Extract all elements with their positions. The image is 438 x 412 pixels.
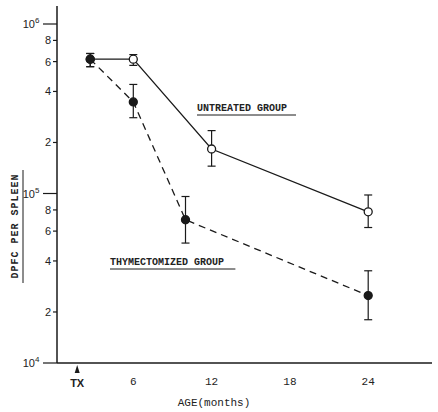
open-circle-marker	[129, 55, 137, 63]
filled-circle-marker	[182, 216, 190, 224]
x-axis-label: AGE(months)	[178, 397, 251, 409]
label-untreated-group: UNTREATED GROUP	[197, 103, 287, 114]
filled-circle-marker	[86, 55, 94, 63]
y-tick-label: 2	[45, 306, 51, 318]
series-line	[90, 59, 368, 212]
y-tick-exponent: 6	[35, 16, 40, 25]
x-tick-label-tx: TX	[70, 377, 85, 389]
y-tick-label: 8	[45, 204, 51, 216]
y-tick-label: 6	[45, 56, 51, 68]
label-thymectomized-group: THYMECTOMIZED GROUP	[110, 257, 224, 268]
y-tick-label: 2	[45, 136, 51, 148]
filled-circle-marker	[129, 98, 137, 106]
x-tick-label: 12	[205, 376, 218, 388]
y-axis-ticks: 10424681052468106	[23, 16, 57, 369]
filled-circle-marker	[364, 292, 372, 300]
x-axis-ticks: TX6121824	[70, 365, 375, 389]
series-thymectomized	[86, 53, 372, 319]
series-labels: UNTREATED GROUPTHYMECTOMIZED GROUP	[110, 103, 296, 269]
y-tick-label: 4	[45, 255, 51, 267]
y-tick-label: 4	[45, 85, 51, 97]
open-circle-marker	[208, 145, 216, 153]
tx-arrow-icon	[75, 365, 80, 373]
y-tick-exponent: 5	[35, 186, 40, 195]
y-axis-label: DPFC PER SPLEEN	[10, 173, 21, 278]
y-tick-label: 6	[45, 225, 51, 237]
x-tick-label: 6	[130, 376, 137, 388]
y-tick-label: 10	[23, 18, 35, 30]
series-untreated	[86, 53, 372, 227]
y-tick-exponent: 4	[35, 355, 40, 364]
x-tick-label: 24	[362, 376, 376, 388]
y-tick-label: 10	[23, 357, 35, 369]
x-tick-label: 18	[283, 376, 296, 388]
y-axis-label-group: DPFC PER SPLEEN	[10, 173, 21, 278]
chart: 10424681052468106 TX6121824 UNTREATED GR…	[0, 0, 438, 412]
y-tick-label: 8	[45, 34, 51, 46]
open-circle-marker	[364, 208, 372, 216]
y-tick-label: 10	[23, 188, 35, 200]
data-series	[86, 53, 372, 319]
